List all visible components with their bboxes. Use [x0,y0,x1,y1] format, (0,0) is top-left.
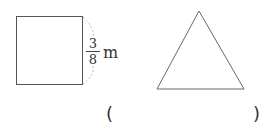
length-unit: m [103,43,118,62]
fraction-denominator: 8 [86,53,100,66]
fraction-numerator: 3 [86,37,100,50]
side-length-fraction: 3 8 [86,37,100,66]
answer-blank[interactable] [118,104,248,124]
triangle-shape [157,11,244,89]
square-shape [17,17,83,85]
answer-open-paren: ( [106,103,113,124]
answer-close-paren: ) [253,103,260,124]
